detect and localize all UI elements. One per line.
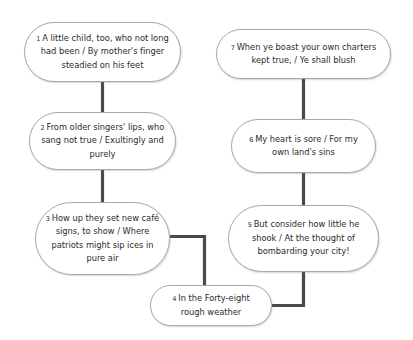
edge-4-5-connector [272, 272, 304, 306]
node-4-text: 4 In the Forty-eight rough weather [160, 292, 262, 319]
node-4-body: In the Forty-eight rough weather [177, 293, 250, 316]
node-2[interactable]: 2 From older singers' lips, who sang not… [29, 112, 176, 170]
node-3-body: How up they set new café signs, to show … [50, 213, 159, 263]
node-6-text: 6 My heart is sore / For my own land's s… [241, 133, 366, 160]
node-1-text: 1 A little child, too, who not long had … [34, 32, 171, 72]
node-7[interactable]: 7 When ye boast your own charters kept t… [216, 29, 391, 79]
node-1[interactable]: 1 A little child, too, who not long had … [24, 22, 181, 82]
node-4[interactable]: 4 In the Forty-eight rough weather [150, 285, 272, 326]
node-7-body: When ye boast your own charters kept tru… [235, 42, 376, 65]
node-5[interactable]: 5 But consider how little he shook / At … [228, 205, 379, 272]
diagram-canvas: 1 A little child, too, who not long had … [0, 0, 413, 340]
node-2-body: From older singers' lips, who sang not t… [41, 122, 164, 159]
node-5-body: But consider how little he shook / At th… [252, 219, 359, 256]
node-5-text: 5 But consider how little he shook / At … [238, 218, 369, 258]
edge-3-4-connector [170, 237, 205, 286]
node-2-text: 2 From older singers' lips, who sang not… [39, 121, 166, 161]
node-6-body: My heart is sore / For my own land's sin… [254, 134, 358, 157]
node-3[interactable]: 3 How up they set new café signs, to sho… [35, 202, 170, 275]
node-1-body: A little child, too, who not long had be… [41, 33, 169, 70]
node-3-text: 3 How up they set new café signs, to sho… [45, 212, 160, 266]
node-7-text: 7 When ye boast your own charters kept t… [226, 41, 381, 68]
node-6[interactable]: 6 My heart is sore / For my own land's s… [231, 119, 376, 173]
